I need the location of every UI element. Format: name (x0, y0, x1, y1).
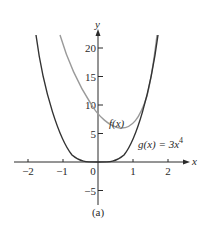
y-axis-arrow-icon (96, 29, 101, 36)
y-tick-label: 5 (91, 128, 97, 140)
x-axis-arrow-icon (183, 160, 190, 165)
g-label-text: g(x) = 3x (138, 138, 179, 151)
y-tick-label: 20 (85, 42, 97, 54)
g-label: g(x) = 3x4 (138, 136, 183, 151)
y-ticks (98, 48, 103, 191)
f-label: f(x) (109, 117, 125, 130)
y-tick-label: −5 (84, 185, 96, 197)
x-tick-label: −1 (56, 165, 68, 177)
chart-canvas: −2 −1 0 1 2 20 15 10 5 −5 x y f(x) g(x) … (0, 0, 203, 229)
axes (14, 29, 190, 205)
y-axis-label: y (94, 18, 100, 30)
g-label-exponent: 4 (179, 136, 183, 145)
y-tick-label: 15 (85, 71, 97, 83)
x-tick-label: 1 (130, 165, 136, 177)
x-axis-label: x (191, 155, 197, 167)
x-tick-label: 0 (90, 165, 96, 177)
x-tick-label: −2 (22, 165, 34, 177)
figure-caption: (a) (92, 206, 105, 219)
x-tick-label: 2 (165, 165, 171, 177)
